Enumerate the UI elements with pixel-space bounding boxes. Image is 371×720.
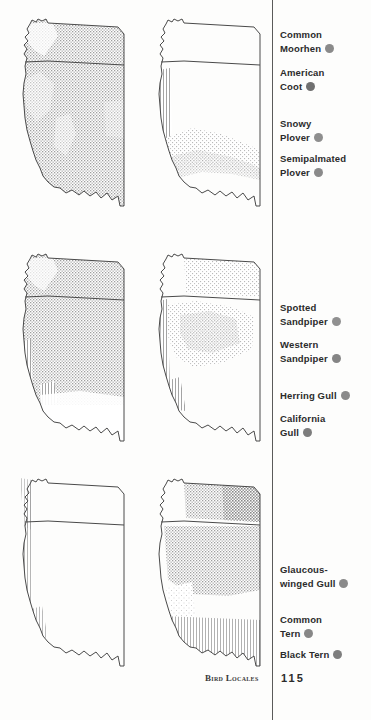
legend-dot-icon (325, 44, 334, 53)
legend-species-name-cont: Tern (280, 627, 371, 641)
legend-species-name: Western (280, 338, 371, 352)
legend-item[interactable]: Glaucous-winged Gull (280, 563, 371, 590)
legend-species-name: Herring Gull (280, 389, 371, 403)
legend-species-name-cont: Sandpiper (280, 315, 371, 329)
legend-item[interactable]: CommonTern (280, 613, 371, 640)
range-map-3-graphic (0, 245, 136, 475)
legend-dot-icon (332, 317, 341, 326)
footer-page-number: 115 (281, 672, 305, 684)
footer-section-title: Bird Locales (205, 673, 259, 683)
legend-dot-icon (304, 629, 313, 638)
legend-dot-icon (332, 354, 341, 363)
legend-dot-icon (303, 428, 312, 437)
legend-species-name-cont: Plover (280, 166, 371, 180)
legend-item[interactable]: SnowyPlover (280, 117, 371, 144)
range-map-4 (136, 245, 272, 475)
legend-species-name-cont: Sandpiper (280, 352, 371, 366)
legend-item[interactable]: CommonMoorhen (280, 28, 371, 55)
legend-species-name-cont: Coot (280, 80, 371, 94)
range-map-1-graphic (0, 10, 136, 240)
legend-species-name: Glaucous- (280, 563, 371, 577)
legend-item[interactable]: Black Tern (280, 648, 371, 662)
range-map-1 (0, 10, 136, 240)
legend-dot-icon (341, 391, 350, 400)
species-legend: CommonMoorhenAmericanCootSnowyPloverSemi… (280, 0, 371, 690)
legend-item[interactable]: SemipalmatedPlover (280, 152, 371, 179)
range-map-5-graphic (0, 470, 136, 700)
legend-species-name: Spotted (280, 301, 371, 315)
range-map-3 (0, 245, 136, 475)
legend-item[interactable]: AmericanCoot (280, 66, 371, 93)
column-divider (272, 0, 273, 720)
legend-item[interactable]: WesternSandpiper (280, 338, 371, 365)
range-map-5 (0, 470, 136, 700)
legend-species-name: California (280, 412, 371, 426)
legend-species-name: Snowy (280, 117, 371, 131)
range-map-2 (136, 10, 272, 240)
legend-species-name: Common (280, 613, 371, 627)
legend-item[interactable]: CaliforniaGull (280, 412, 371, 439)
legend-species-name-cont: winged Gull (280, 577, 371, 591)
range-map-4-graphic (136, 245, 272, 475)
legend-species-name-cont: Plover (280, 131, 371, 145)
legend-species-name: American (280, 66, 371, 80)
range-map-grid (0, 0, 272, 690)
legend-dot-icon (339, 579, 348, 588)
legend-species-name-cont: Gull (280, 426, 371, 440)
range-map-2-graphic (136, 10, 272, 240)
legend-species-name: Semipalmated (280, 152, 371, 166)
range-map-6-graphic (136, 470, 272, 700)
legend-item[interactable]: Herring Gull (280, 389, 371, 403)
legend-species-name-cont: Moorhen (280, 42, 371, 56)
legend-item[interactable]: SpottedSandpiper (280, 301, 371, 328)
legend-dot-icon (333, 650, 342, 659)
legend-dot-icon (314, 133, 323, 142)
guide-page: CommonMoorhenAmericanCootSnowyPloverSemi… (0, 0, 371, 720)
legend-species-name: Common (280, 28, 371, 42)
range-map-6 (136, 470, 272, 700)
legend-dot-icon (306, 82, 315, 91)
legend-species-name: Black Tern (280, 648, 371, 662)
legend-dot-icon (314, 168, 323, 177)
